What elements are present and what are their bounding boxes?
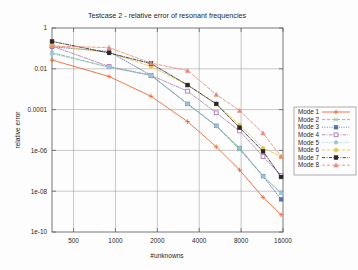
data-point-marker: [50, 52, 54, 56]
data-point-marker: [238, 146, 242, 150]
series-4: [50, 44, 283, 177]
series-6: [50, 44, 283, 159]
data-point-marker: [334, 133, 338, 137]
y-tick-label: 1e-08: [31, 188, 48, 195]
legend-item-label: Mode 6: [298, 146, 320, 153]
chart-title: Testcase 2 - relative error of resonant …: [88, 11, 247, 20]
data-series-layer: [50, 40, 284, 218]
legend-item-label: Mode 5: [298, 139, 320, 146]
x-tick-label: 4000: [192, 237, 207, 244]
data-point-marker: [50, 58, 55, 63]
series-line: [52, 60, 281, 215]
data-point-marker: [261, 149, 265, 153]
legend-item-label: Mode 3: [298, 123, 320, 130]
y-tick-label: 1: [43, 24, 47, 31]
series-line: [52, 54, 281, 193]
x-tick-label: 8000: [234, 237, 249, 244]
x-tick-label: 16000: [274, 237, 292, 244]
legend-item-6[interactable]: Mode 6: [298, 146, 350, 153]
series-line: [52, 45, 281, 156]
x-axis-tick-labels: 500100020004000800016000: [68, 237, 292, 244]
legend-item-label: Mode 4: [298, 131, 320, 138]
data-point-marker: [107, 65, 111, 69]
data-point-marker: [186, 89, 190, 93]
legend-item-label: Mode 1: [298, 108, 320, 115]
data-point-marker: [261, 174, 265, 178]
series-line: [52, 53, 281, 194]
legend-item-label: Mode 8: [298, 161, 320, 168]
y-axis-label: relative error: [14, 111, 21, 149]
plot-title-group: Testcase 2 - relative error of resonant …: [88, 11, 247, 20]
data-point-marker: [214, 92, 218, 96]
data-point-marker: [149, 73, 153, 77]
data-point-marker: [107, 74, 112, 79]
y-tick-label: 0.01: [35, 65, 48, 72]
x-axis-label: #unknowns: [150, 252, 184, 259]
data-point-marker: [334, 148, 338, 152]
legend-item-8[interactable]: Mode 8: [298, 161, 350, 168]
data-point-marker: [214, 102, 218, 106]
data-point-marker: [334, 110, 339, 115]
data-point-marker: [107, 51, 111, 55]
data-point-marker: [279, 197, 283, 201]
x-tick-label: 2000: [150, 237, 165, 244]
legend-item-label: Mode 2: [298, 116, 320, 123]
data-point-marker: [50, 40, 54, 44]
legend-item-4[interactable]: Mode 4: [298, 131, 350, 138]
data-point-marker: [334, 125, 338, 129]
legend-item-7[interactable]: Mode 7: [298, 154, 350, 161]
data-point-marker: [238, 126, 242, 130]
data-point-marker: [214, 124, 218, 128]
series-5: [50, 52, 283, 195]
data-point-marker: [279, 175, 283, 179]
data-point-marker: [186, 83, 190, 87]
legend-item-5[interactable]: Mode 5: [298, 139, 350, 146]
chart-legend: Mode 1Mode 2Mode 3Mode 4Mode 5Mode 6Mode…: [294, 107, 356, 175]
legend-item-3[interactable]: Mode 3: [298, 123, 350, 130]
data-point-marker: [334, 141, 338, 145]
y-tick-label: 1e-06: [31, 147, 48, 154]
series-line: [52, 46, 281, 175]
legend-item-1[interactable]: Mode 1: [298, 108, 350, 115]
y-tick-label: 1e-10: [31, 228, 48, 235]
data-point-marker: [186, 102, 190, 106]
data-point-marker: [279, 191, 283, 195]
legend-item-label: Mode 7: [298, 154, 320, 161]
data-point-marker: [261, 155, 265, 159]
chart-container: Testcase 2 - relative error of resonant …: [0, 0, 358, 270]
legend-items: Mode 1Mode 2Mode 3Mode 4Mode 5Mode 6Mode…: [298, 108, 350, 168]
series-3: [50, 45, 283, 201]
data-point-marker: [214, 111, 218, 115]
legend-item-2[interactable]: Mode 2: [298, 116, 350, 123]
y-axis-tick-labels: 10.010.00011e-061e-081e-10: [27, 24, 47, 235]
x-tick-label: 500: [68, 237, 79, 244]
data-point-marker: [334, 156, 338, 160]
chart-svg: Testcase 2 - relative error of resonant …: [0, 0, 358, 270]
series-line: [52, 46, 281, 156]
x-tick-label: 1000: [108, 237, 123, 244]
y-tick-label: 0.0001: [27, 106, 47, 113]
